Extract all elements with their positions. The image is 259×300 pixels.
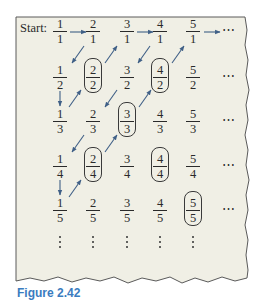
fraction-3-1: 31 [120,18,134,45]
fraction-3-4: 34 [120,153,134,180]
paper-background [16,17,249,283]
numerator: 1 [53,18,67,32]
column-ellipsis [124,236,130,251]
row-ellipsis: ⋯ [222,112,236,128]
denominator: 3 [153,122,167,135]
denominator: 4 [120,167,134,180]
numerator: 3 [120,197,134,211]
fraction-3-5: 35 [120,197,134,224]
denominator: 1 [153,32,167,45]
fraction-1-4: 14 [53,153,67,180]
numerator: 4 [153,108,167,122]
fraction-5-3: 53 [186,108,200,135]
denominator: 2 [120,78,134,91]
denominator: 4 [86,167,100,180]
fraction-4-1: 41 [153,18,167,45]
numerator: 2 [86,153,100,167]
numerator: 3 [120,108,134,122]
denominator: 4 [153,167,167,180]
numerator: 1 [53,153,67,167]
numerator: 1 [53,197,67,211]
row-ellipsis: ⋯ [222,157,236,173]
numerator: 4 [153,64,167,78]
denominator: 1 [120,32,134,45]
denominator: 3 [53,122,67,135]
numerator: 2 [86,197,100,211]
denominator: 3 [86,122,100,135]
denominator: 2 [153,78,167,91]
numerator: 4 [153,18,167,32]
denominator: 5 [186,211,200,224]
fraction-5-2: 52 [186,64,200,91]
numerator: 2 [86,18,100,32]
numerator: 5 [186,108,200,122]
numerator: 1 [53,108,67,122]
denominator: 5 [53,211,67,224]
column-ellipsis [157,236,163,251]
numerator: 2 [86,64,100,78]
fraction-2-3: 23 [86,108,100,135]
numerator: 3 [120,18,134,32]
numerator: 4 [153,153,167,167]
fraction-4-4: 44 [153,153,167,180]
denominator: 5 [86,211,100,224]
figure-caption: Figure 2.42 [17,286,80,300]
fraction-1-1: 11 [53,18,67,45]
row-ellipsis: ⋯ [222,22,236,38]
denominator: 3 [120,122,134,135]
numerator: 3 [120,153,134,167]
denominator: 4 [186,167,200,180]
denominator: 2 [186,78,200,91]
row-ellipsis: ⋯ [222,201,236,217]
denominator: 2 [53,78,67,91]
fraction-5-5: 55 [186,197,200,224]
fraction-3-3: 33 [120,108,134,135]
numerator: 5 [186,153,200,167]
fraction-2-4: 24 [86,153,100,180]
column-ellipsis [190,236,196,251]
denominator: 1 [53,32,67,45]
fraction-2-2: 22 [86,64,100,91]
fraction-4-2: 42 [153,64,167,91]
denominator: 4 [53,167,67,180]
fraction-1-5: 15 [53,197,67,224]
denominator: 1 [86,32,100,45]
numerator: 5 [186,197,200,211]
column-ellipsis [57,236,63,251]
fraction-4-5: 45 [153,197,167,224]
denominator: 5 [153,211,167,224]
numerator: 5 [186,64,200,78]
numerator: 2 [86,108,100,122]
denominator: 3 [186,122,200,135]
fraction-5-4: 54 [186,153,200,180]
fraction-4-3: 43 [153,108,167,135]
numerator: 1 [53,64,67,78]
row-ellipsis: ⋯ [222,68,236,84]
denominator: 5 [120,211,134,224]
column-ellipsis [90,236,96,251]
fraction-1-2: 12 [53,64,67,91]
denominator: 2 [86,78,100,91]
fraction-5-1: 51 [186,18,200,45]
numerator: 4 [153,197,167,211]
numerator: 3 [120,64,134,78]
numerator: 5 [186,18,200,32]
fraction-2-5: 25 [86,197,100,224]
denominator: 1 [186,32,200,45]
fraction-1-3: 13 [53,108,67,135]
start-label: Start: [20,21,47,36]
fraction-2-1: 21 [86,18,100,45]
fraction-3-2: 32 [120,64,134,91]
